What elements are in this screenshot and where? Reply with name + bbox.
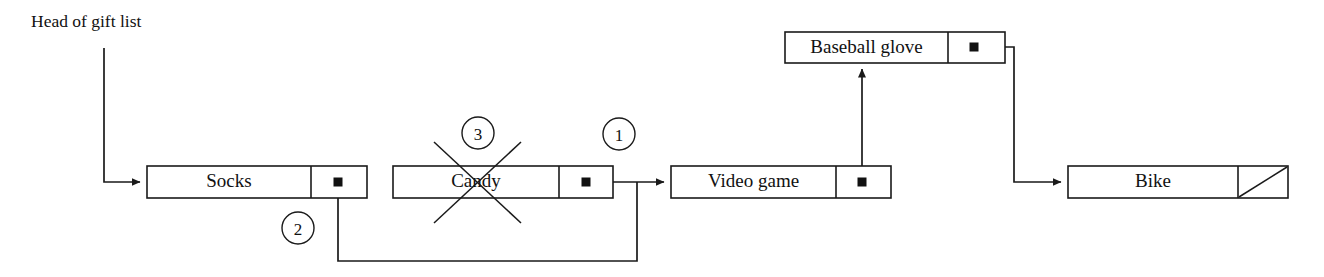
node-socks: Socks	[147, 166, 367, 198]
step-number-3: 3	[474, 125, 483, 144]
pointer-dot-baseball-glove	[970, 43, 979, 52]
links-layer	[104, 47, 1061, 261]
node-label-video-game: Video game	[708, 170, 799, 191]
pointer-dot-candy	[582, 178, 591, 187]
link-baseball-glove-to-bike	[974, 47, 1061, 182]
node-box-bike	[1068, 166, 1288, 198]
step-number-1: 1	[615, 126, 624, 145]
linked-list-diagram: SocksCandyVideo gameBaseball gloveBike 1…	[0, 0, 1324, 277]
node-label-socks: Socks	[206, 170, 251, 191]
node-label-baseball-glove: Baseball glove	[810, 36, 922, 57]
pointer-dot-video-game	[858, 178, 867, 187]
link-head-to-socks	[104, 48, 140, 182]
node-box-candy	[393, 166, 613, 198]
node-candy: Candy	[393, 166, 613, 198]
node-label-bike: Bike	[1135, 170, 1171, 191]
node-video-game: Video game	[671, 166, 891, 198]
step-number-2: 2	[294, 220, 303, 239]
node-baseball-glove: Baseball glove	[785, 32, 1005, 63]
node-bike: Bike	[1068, 166, 1288, 198]
pointer-dot-socks	[334, 178, 343, 187]
nodes-layer: SocksCandyVideo gameBaseball gloveBike	[147, 32, 1288, 198]
head-of-list-caption: Head of gift list	[31, 11, 141, 31]
step-marker-3: 3	[462, 117, 494, 149]
step-marker-2: 2	[282, 212, 314, 244]
diagram-canvas: SocksCandyVideo gameBaseball gloveBike 1…	[0, 0, 1324, 277]
step-marker-1: 1	[603, 118, 635, 150]
